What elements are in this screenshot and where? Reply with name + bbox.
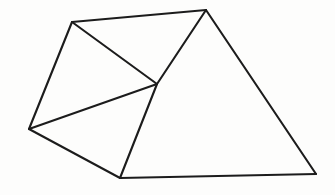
figure-canvas	[0, 0, 335, 195]
polygon-diagram	[0, 0, 335, 195]
